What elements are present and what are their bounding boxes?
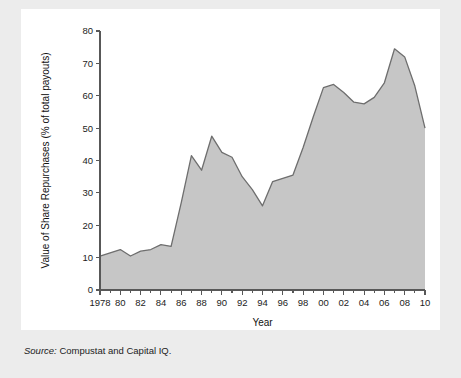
- y-axis-title: Value of Share Repurchases (% of total p…: [40, 52, 51, 268]
- source-note: Source: Compustat and Capital IQ.: [24, 345, 171, 356]
- y-tick-label-30: 30: [82, 187, 93, 198]
- y-tick-label-60: 60: [82, 90, 93, 101]
- chart-plot-group: 0102030405060708019788082848688909294969…: [40, 25, 430, 328]
- x-tick-label-1992: 92: [237, 297, 248, 308]
- x-tick-label-1982: 82: [135, 297, 146, 308]
- x-tick-label-1978: 1978: [89, 297, 110, 308]
- figure-card: 0102030405060708019788082848688909294969…: [21, 9, 440, 330]
- y-tick-label-40: 40: [82, 155, 93, 166]
- y-tick-label-70: 70: [82, 58, 93, 69]
- y-tick-label-50: 50: [82, 123, 93, 134]
- x-tick-label-2000: 00: [318, 297, 329, 308]
- x-tick-label-1980: 80: [115, 297, 126, 308]
- x-tick-label-1990: 90: [217, 297, 228, 308]
- x-tick-label-1986: 86: [176, 297, 187, 308]
- y-tick-label-80: 80: [82, 25, 93, 36]
- x-axis-title: Year: [252, 317, 273, 328]
- share-repurchases-area-chart: 0102030405060708019788082848688909294969…: [21, 9, 440, 330]
- y-tick-label-20: 20: [82, 220, 93, 231]
- x-tick-label-2008: 08: [399, 297, 410, 308]
- y-tick-label-0: 0: [88, 284, 93, 295]
- source-text: Compustat and Capital IQ.: [57, 345, 172, 356]
- x-tick-label-2006: 06: [379, 297, 390, 308]
- source-label: Source:: [24, 345, 57, 356]
- x-tick-label-2004: 04: [359, 297, 370, 308]
- y-tick-label-10: 10: [82, 252, 93, 263]
- x-tick-label-1988: 88: [196, 297, 207, 308]
- x-tick-label-1996: 96: [278, 297, 289, 308]
- x-tick-label-2010: 10: [420, 297, 431, 308]
- area-series-fill: [100, 49, 425, 290]
- x-tick-label-2002: 02: [338, 297, 349, 308]
- x-tick-label-1984: 84: [156, 297, 167, 308]
- x-tick-label-1998: 98: [298, 297, 309, 308]
- x-tick-label-1994: 94: [257, 297, 268, 308]
